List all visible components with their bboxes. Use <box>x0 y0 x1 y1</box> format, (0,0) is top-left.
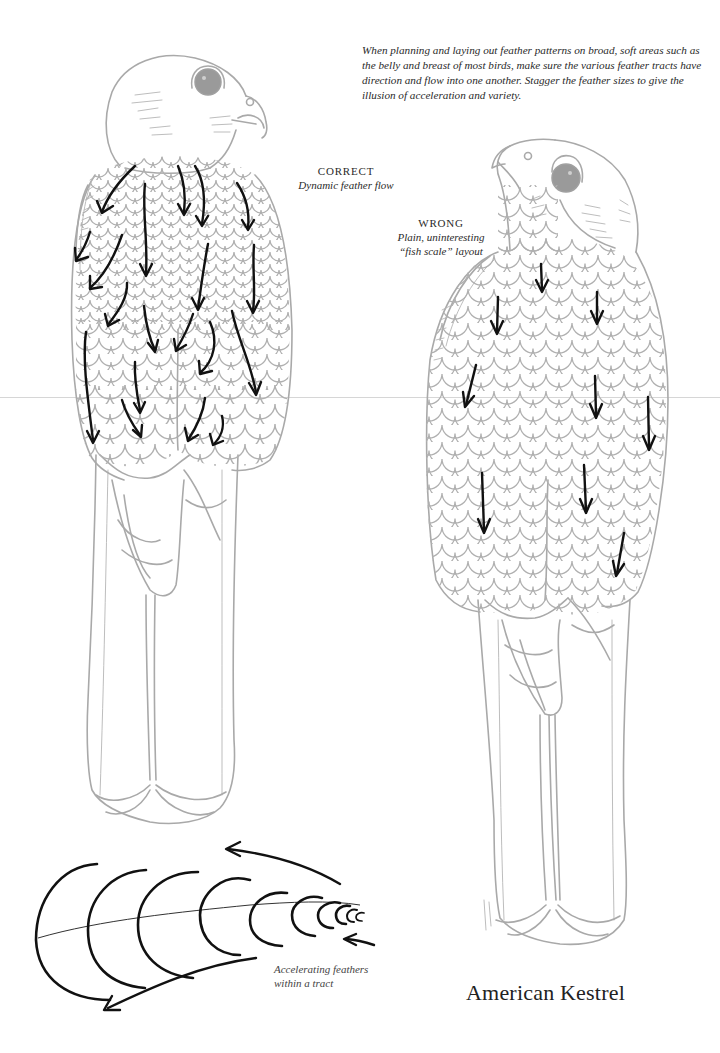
correct-kestrel-drawing <box>70 56 300 824</box>
correct-heading: CORRECT <box>286 164 406 178</box>
wrong-subtitle-line1: Plain, uninteresting <box>378 230 504 244</box>
correct-label: CORRECT Dynamic feather flow <box>286 164 406 192</box>
illustration-canvas <box>0 0 720 1053</box>
page-title: American Kestrel <box>466 980 625 1006</box>
intro-paragraph: When planning and laying out feather pat… <box>362 43 712 103</box>
wrong-heading: WRONG <box>378 216 504 230</box>
wrong-subtitle-line2: “fish scale” layout <box>378 244 504 258</box>
tract-caption-line2: within a tract <box>274 976 368 990</box>
correct-subtitle: Dynamic feather flow <box>286 178 406 192</box>
tract-caption-line1: Accelerating feathers <box>274 962 368 976</box>
tract-caption: Accelerating feathers within a tract <box>274 962 368 990</box>
wrong-label: WRONG Plain, uninteresting “fish scale” … <box>378 216 504 258</box>
wrong-kestrel-drawing <box>420 139 680 944</box>
